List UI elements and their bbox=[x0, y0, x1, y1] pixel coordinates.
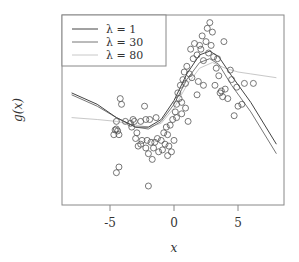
data-point bbox=[206, 50, 212, 56]
legend-label-lambda-80: λ = 80 bbox=[106, 49, 143, 62]
data-point bbox=[212, 82, 218, 88]
data-point bbox=[165, 132, 171, 138]
data-point bbox=[170, 117, 176, 123]
data-point bbox=[229, 77, 235, 83]
data-point bbox=[208, 42, 214, 48]
data-point bbox=[143, 145, 149, 151]
data-point bbox=[183, 105, 189, 111]
x-axis-label: x bbox=[171, 241, 178, 255]
data-point bbox=[199, 33, 205, 39]
data-point bbox=[168, 149, 174, 155]
data-point bbox=[211, 54, 217, 60]
data-point bbox=[133, 136, 139, 142]
data-point bbox=[145, 183, 151, 189]
data-point bbox=[145, 151, 151, 157]
data-point bbox=[235, 103, 241, 109]
data-point bbox=[151, 145, 157, 151]
data-point bbox=[239, 101, 245, 107]
data-point bbox=[158, 137, 164, 143]
data-point bbox=[113, 170, 119, 176]
data-point bbox=[188, 46, 194, 52]
x-tick-label: -5 bbox=[104, 216, 116, 230]
x-tick-label: 5 bbox=[234, 216, 242, 230]
data-point bbox=[159, 147, 165, 153]
data-point bbox=[153, 115, 159, 121]
data-point bbox=[200, 82, 206, 88]
data-point bbox=[190, 56, 196, 62]
data-point bbox=[149, 156, 155, 162]
x-axis-ticks: -505 bbox=[104, 205, 242, 230]
data-point bbox=[221, 39, 227, 45]
data-point bbox=[234, 84, 240, 90]
data-point bbox=[250, 80, 256, 86]
data-point bbox=[162, 141, 168, 147]
data-point bbox=[174, 115, 180, 121]
data-point bbox=[231, 113, 237, 119]
data-point bbox=[213, 65, 219, 71]
data-point bbox=[142, 103, 148, 109]
data-point bbox=[116, 164, 122, 170]
chart: -505 x g(x) λ = 1 λ = 30 λ = 80 bbox=[0, 0, 299, 262]
data-point bbox=[131, 118, 137, 124]
legend-label-lambda-1: λ = 1 bbox=[106, 23, 136, 36]
y-axis-label: g(x) bbox=[11, 98, 25, 122]
data-point bbox=[161, 130, 167, 136]
data-point bbox=[203, 39, 209, 45]
legend-label-lambda-30: λ = 30 bbox=[106, 36, 143, 49]
data-point bbox=[222, 86, 228, 92]
data-point bbox=[134, 130, 140, 136]
data-point bbox=[197, 42, 203, 48]
data-point bbox=[117, 96, 123, 102]
legend: λ = 1 λ = 30 λ = 80 bbox=[62, 15, 166, 66]
data-point bbox=[166, 143, 172, 149]
data-point bbox=[165, 153, 171, 159]
data-point bbox=[207, 20, 213, 26]
data-point bbox=[179, 111, 185, 117]
data-point bbox=[185, 118, 191, 124]
data-point bbox=[204, 25, 210, 31]
data-point bbox=[225, 96, 231, 102]
data-point bbox=[209, 29, 215, 35]
data-point bbox=[171, 137, 177, 143]
data-point bbox=[184, 63, 190, 69]
data-point bbox=[163, 124, 169, 130]
data-point bbox=[194, 92, 200, 98]
data-point bbox=[198, 46, 204, 52]
data-point bbox=[195, 79, 201, 85]
data-point bbox=[147, 117, 153, 123]
x-tick-label: 0 bbox=[170, 216, 178, 230]
data-point bbox=[167, 122, 173, 128]
data-point bbox=[241, 80, 247, 86]
data-point bbox=[216, 73, 222, 79]
data-point bbox=[172, 109, 178, 115]
data-point bbox=[156, 149, 162, 155]
data-point bbox=[119, 101, 125, 107]
